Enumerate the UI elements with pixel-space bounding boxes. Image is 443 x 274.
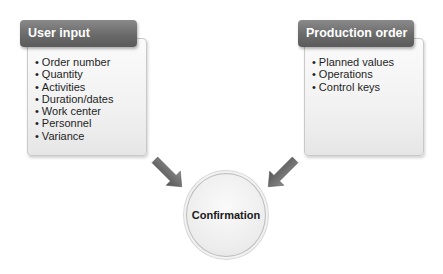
arrow-down-left-icon	[261, 153, 302, 194]
confirmation-label: Confirmation	[192, 209, 260, 221]
arrow-down-right-icon	[148, 153, 189, 194]
confirmation-circle: Confirmation	[186, 173, 266, 257]
